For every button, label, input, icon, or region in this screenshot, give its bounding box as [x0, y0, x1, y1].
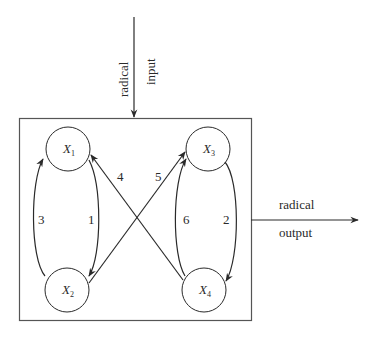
edge-label-5: 5 [155, 169, 162, 184]
svg-text:X1: X1 [62, 141, 75, 158]
edge-label-2: 2 [223, 212, 230, 227]
svg-text:X2: X2 [61, 282, 74, 299]
svg-text:X4: X4 [198, 282, 211, 299]
output-label-output: output [279, 225, 313, 240]
edge-label-3: 3 [38, 212, 45, 227]
node-x2: X2 [45, 268, 89, 312]
node-x3: X3 [186, 127, 230, 171]
edge-label-1: 1 [88, 212, 95, 227]
reaction-network-diagram: radical input radical output X1 X2 X3 X4… [0, 0, 377, 339]
edge-label-4: 4 [117, 169, 124, 184]
node-x1: X1 [46, 127, 90, 171]
input-label-input: input [143, 58, 158, 85]
input-label-radical: radical [116, 61, 131, 97]
svg-text:X3: X3 [202, 141, 215, 158]
output-label-radical: radical [279, 197, 315, 212]
edge-label-6: 6 [183, 212, 190, 227]
node-x4: X4 [182, 268, 226, 312]
